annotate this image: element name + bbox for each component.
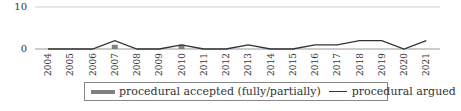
x-tick-label: 2012 — [221, 53, 231, 76]
x-tick-label: 2005 — [65, 53, 75, 76]
x-tick-label: 2004 — [43, 53, 53, 76]
x-tick-label: 2008 — [132, 53, 142, 76]
legend: procedural accepted (fully/partially) pr… — [84, 82, 388, 101]
x-tick-label: 2017 — [332, 53, 342, 76]
legend-item-accepted: procedural accepted (fully/partially) — [91, 85, 321, 98]
legend-item-argued: procedural argued — [329, 85, 456, 98]
x-tick-label: 2007 — [110, 53, 120, 76]
chart-plot-area: 10 0 20042005200620072008200920102011201… — [0, 0, 461, 82]
x-tick-label: 2011 — [199, 53, 209, 76]
bar — [112, 45, 118, 49]
line-series — [48, 41, 426, 49]
y-tick-10: 10 — [14, 1, 27, 12]
x-tick-label: 2013 — [243, 53, 253, 76]
x-tick-label: 2006 — [88, 53, 98, 76]
line-swatch-icon — [329, 91, 347, 93]
x-tick-labels: 2004200520062007200820092010201120122013… — [43, 53, 431, 76]
bar-swatch-icon — [91, 90, 115, 94]
x-tick-label: 2016 — [310, 53, 320, 76]
x-tick-label: 2018 — [355, 53, 365, 76]
y-tick-0: 0 — [21, 43, 27, 54]
x-tick-label: 2014 — [266, 53, 276, 76]
x-tick-label: 2021 — [421, 53, 431, 76]
x-tick-label: 2009 — [154, 53, 164, 76]
legend-label-accepted: procedural accepted (fully/partially) — [119, 85, 321, 98]
x-tick-label: 2019 — [377, 53, 387, 76]
legend-label-argued: procedural argued — [352, 85, 456, 98]
x-tick-label: 2010 — [177, 53, 187, 76]
x-tick-label: 2020 — [399, 53, 409, 76]
x-tick-label: 2015 — [288, 53, 298, 76]
